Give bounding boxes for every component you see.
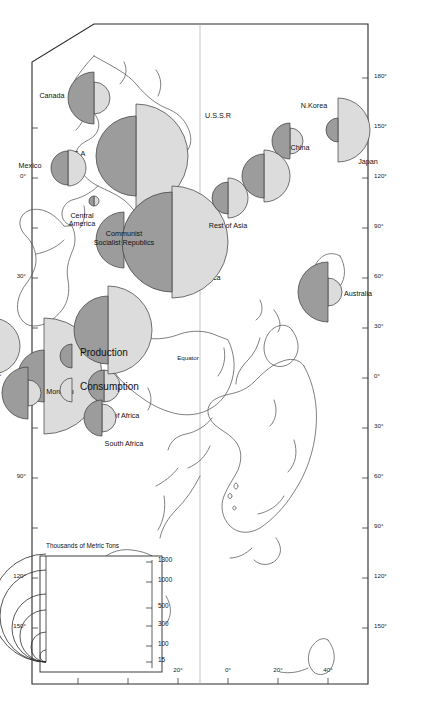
lat-label: 20° bbox=[173, 666, 183, 673]
scale-tick-label: 100 bbox=[158, 640, 169, 647]
lon-label: 30° bbox=[374, 422, 384, 429]
map-svg: 180° 150° 120° 90° 60° 30° 0° 30° 60° 90… bbox=[0, 0, 424, 708]
region-label-japan: Japan bbox=[358, 157, 378, 166]
symbol-csr[interactable]: Communist Socialist Republics bbox=[94, 186, 228, 298]
scale-tick-label: 500 bbox=[158, 602, 169, 609]
lon-label: 120° bbox=[374, 172, 387, 179]
symbol-mexico[interactable]: Mexico bbox=[19, 150, 86, 186]
symbol-non-eec-weurope[interactable]: Non E.E.C W.Europe bbox=[0, 318, 20, 374]
lon-label: 120° bbox=[374, 572, 387, 579]
equator-line: Equator bbox=[177, 24, 200, 684]
symbol-japan[interactable]: Japan bbox=[326, 98, 378, 166]
region-label-rest-asia: Rest of Asia bbox=[209, 221, 247, 230]
region-label-china: China bbox=[291, 143, 310, 152]
scale-tick-label: 15 bbox=[158, 656, 166, 663]
lon-label: 30° bbox=[374, 322, 384, 329]
symbol-rest-asia[interactable]: Rest of Asia bbox=[209, 178, 248, 230]
region-label-ussr: U.S.S.R bbox=[205, 111, 231, 120]
lat-label: 0° bbox=[225, 666, 231, 673]
lon-label: 0° bbox=[374, 372, 380, 379]
scale-title: Thousands of Metric Tons bbox=[46, 542, 119, 549]
region-label-canada: Canada bbox=[39, 91, 64, 100]
rotated-map-container: 180° 150° 120° 90° 60° 30° 0° 30° 60° 90… bbox=[0, 0, 424, 708]
region-label-csr-2: Socialist Republics bbox=[94, 238, 155, 247]
lon-label: 30° bbox=[17, 272, 27, 279]
lon-label: 150° bbox=[13, 622, 26, 629]
lon-label: 60° bbox=[374, 472, 384, 479]
equator-label: Equator bbox=[177, 354, 199, 361]
legend-production-label: Production bbox=[80, 347, 128, 358]
lon-label: 150° bbox=[374, 122, 387, 129]
legend-consumption-label: Consumption bbox=[80, 381, 139, 392]
scale-tick-label: 300 bbox=[158, 620, 169, 627]
longitude-labels-top: 180° 150° 120° 90° 60° 30° 0° 30° 60° 90… bbox=[374, 72, 387, 629]
scale-tick-label: 1000 bbox=[158, 576, 173, 583]
region-label-mexico: Mexico bbox=[19, 161, 42, 170]
lon-label: 90° bbox=[374, 222, 384, 229]
scale-legend: 1300 1000 500 300 100 15 Thousands of Me… bbox=[0, 542, 173, 672]
lon-label: 90° bbox=[374, 522, 384, 529]
world-map: 180° 150° 120° 90° 60° 30° 0° 30° 60° 90… bbox=[0, 0, 424, 708]
region-label-central-america-2: America bbox=[69, 219, 95, 228]
lon-label: 150° bbox=[374, 622, 387, 629]
lon-label: 180° bbox=[374, 72, 387, 79]
symbol-central-america[interactable]: Central America bbox=[69, 196, 99, 228]
symbol-south-africa[interactable]: South Africa bbox=[84, 400, 143, 448]
region-label-south-africa: South Africa bbox=[105, 439, 144, 448]
lon-label: 60° bbox=[374, 272, 384, 279]
scale-tick-label: 1300 bbox=[158, 556, 173, 563]
figure-root: 180° 150° 120° 90° 60° 30° 0° 30° 60° 90… bbox=[0, 0, 424, 708]
lon-label: 0° bbox=[20, 172, 26, 179]
region-label-csr-1: Communist bbox=[106, 229, 142, 238]
scale-arcs bbox=[0, 554, 46, 662]
lon-label: 90° bbox=[17, 472, 27, 479]
symbol-australia[interactable]: Australia bbox=[298, 262, 372, 322]
region-label-nkorea: N.Korea bbox=[301, 101, 327, 110]
region-label-australia: Australia bbox=[344, 289, 372, 298]
